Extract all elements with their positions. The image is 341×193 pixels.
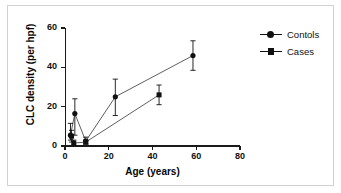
y-tick-mark	[61, 27, 65, 28]
x-tick-label: 60	[184, 152, 208, 161]
legend: Contols Cases	[260, 26, 336, 60]
circle-marker-icon	[260, 29, 282, 41]
x-tick-label: 20	[97, 152, 121, 161]
x-tick-mark	[239, 146, 240, 150]
x-tick-mark	[108, 146, 109, 150]
legend-item-cases[interactable]: Cases	[260, 43, 336, 60]
data-point-square	[83, 140, 88, 145]
x-axis-title: Age (years)	[65, 166, 240, 177]
series-contols	[68, 41, 196, 144]
figure-frame: CLC density (per hpf) Age (years) 020406…	[7, 5, 334, 186]
series-plot	[65, 28, 240, 146]
x-tick-label: 80	[228, 152, 252, 161]
data-point-square	[69, 134, 74, 139]
data-point-circle	[72, 111, 77, 116]
data-point-square	[71, 141, 76, 146]
y-tick-mark	[61, 106, 65, 107]
y-tick-label: 40	[35, 62, 57, 71]
x-tick-label: 0	[53, 152, 77, 161]
square-marker-icon	[260, 46, 282, 58]
legend-label-cases: Cases	[287, 46, 314, 57]
x-tick-mark	[64, 146, 65, 150]
chart-page: CLC density (per hpf) Age (years) 020406…	[0, 0, 341, 193]
data-point-circle	[190, 53, 195, 58]
y-tick-mark	[61, 67, 65, 68]
y-tick-label: 0	[35, 141, 57, 150]
y-tick-label: 60	[35, 23, 57, 32]
legend-item-controls[interactable]: Contols	[260, 26, 336, 43]
y-axis-title: CLC density (per hpf)	[25, 10, 36, 140]
x-tick-mark	[196, 146, 197, 150]
legend-label-controls: Contols	[287, 29, 319, 40]
data-point-square	[157, 92, 162, 97]
series-line	[70, 56, 193, 142]
x-tick-mark	[152, 146, 153, 150]
data-point-circle	[113, 94, 118, 99]
plot-area: 0204060 020406080	[65, 28, 240, 146]
x-tick-label: 40	[141, 152, 165, 161]
y-tick-label: 20	[35, 102, 57, 111]
